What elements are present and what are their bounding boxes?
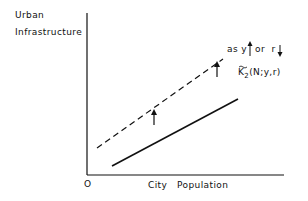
y-up-arrow-icon xyxy=(248,41,253,56)
shift-annotation: as y xyxy=(227,44,247,54)
shift-annotation-or: or r xyxy=(255,44,276,54)
y-axis-label-line2: Infrastructure xyxy=(15,27,82,37)
curve-label-args: (N;y,r) xyxy=(249,67,280,77)
origin-label: O xyxy=(84,179,91,189)
solid-line-k2 xyxy=(112,99,238,166)
x-axis-label: City Population xyxy=(148,180,228,190)
up-arrow-icon xyxy=(214,61,220,77)
curve-label: K2(N;y,r) xyxy=(238,67,281,80)
r-down-arrow-icon xyxy=(278,45,283,57)
dashed-shifted-line xyxy=(97,59,223,148)
up-arrow-icon xyxy=(151,109,157,125)
y-axis-label-line1: Urban xyxy=(15,10,44,20)
